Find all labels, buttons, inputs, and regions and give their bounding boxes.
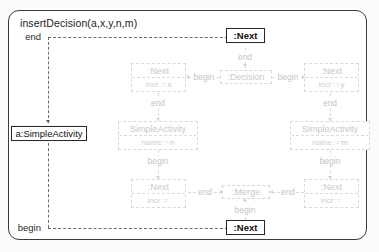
edge-top-end-line <box>48 37 228 38</box>
edge-label-top-end: end <box>24 31 42 42</box>
rule-title: insertDecision(a,x,y,n,m) <box>20 17 137 29</box>
node-next-x-label: :Next <box>132 64 185 78</box>
edge-label-decision-begin-r: begin <box>277 72 300 82</box>
node-next-bottom-left-attr-name: incr <box>148 196 161 205</box>
node-decision[interactable]: :Decision <box>220 70 272 84</box>
edge-label-activity-m-begin: begin <box>319 156 342 166</box>
node-next-y-attribute: incr := y <box>305 78 358 91</box>
edge-label-decision-begin-l: begin <box>193 72 216 82</box>
node-next-bottom-right[interactable]: :Next incr := <box>304 179 359 208</box>
node-next-bottom-left-attr-op: := <box>160 196 169 205</box>
edge-left-spine-upper <box>48 37 49 123</box>
node-activity-n-attribute: name := n <box>119 136 197 149</box>
node-next-bottom-right-label: :Next <box>305 180 358 194</box>
node-decision-label: :Decision <box>221 71 271 83</box>
node-next-x-attr-op: := <box>158 80 167 89</box>
node-next-x-attr-value: x <box>167 80 171 89</box>
node-activity-m-attribute: name := m <box>291 136 369 149</box>
diagram-canvas: insertDecision(a,x,y,n,m) end begin end … <box>0 0 379 252</box>
node-next-x-attribute: incr := x <box>132 78 185 91</box>
node-activity-m-attr-name: name <box>312 138 332 147</box>
edge-merge-end-right-arrow <box>270 190 273 194</box>
node-anchor-activity-label: a:SimpleActivity <box>15 128 82 139</box>
node-bottom-next-label: :Next <box>234 222 258 233</box>
node-next-bottom-left-attribute: incr := <box>132 194 185 207</box>
node-bottom-next[interactable]: :Next <box>226 220 265 235</box>
edge-label-merge-end-l: end <box>197 187 213 197</box>
node-next-y-attr-value: y <box>340 80 344 89</box>
node-next-y[interactable]: :Next incr := y <box>304 63 359 92</box>
node-activity-m[interactable]: SimpleActivity name := m <box>290 121 370 150</box>
node-activity-n-attr-op: := <box>161 138 170 147</box>
node-next-y-attr-op: := <box>331 80 340 89</box>
node-activity-n[interactable]: SimpleActivity name := n <box>118 121 198 150</box>
node-merge-label: :Merge <box>223 186 269 198</box>
node-next-bottom-right-attr-op: := <box>333 196 342 205</box>
node-next-bottom-left-label: :Next <box>132 180 185 194</box>
node-activity-m-attr-op: := <box>332 138 341 147</box>
node-next-bottom-right-attribute: incr := <box>305 194 358 207</box>
edge-label-decision-end: end <box>237 52 253 62</box>
edge-label-next-y-end: end <box>322 98 338 108</box>
edge-decision-begin-left-arrow <box>186 75 189 79</box>
edge-label-merge-begin: begin <box>234 205 257 215</box>
edge-bottom-begin-line <box>48 228 228 229</box>
node-activity-m-attr-value: m <box>341 138 348 147</box>
edge-label-merge-end-r: end <box>280 187 296 197</box>
node-activity-n-attr-name: name <box>141 138 161 147</box>
node-next-y-label: :Next <box>305 64 358 78</box>
node-next-bottom-right-attr-name: incr <box>321 196 334 205</box>
node-activity-n-attr-value: n <box>170 138 174 147</box>
node-top-next[interactable]: :Next <box>226 28 265 43</box>
node-next-y-attr-name: incr <box>319 80 332 89</box>
edge-label-bottom-begin: begin <box>17 222 42 233</box>
edge-label-next-x-end: end <box>150 98 166 108</box>
node-anchor-activity[interactable]: a:SimpleActivity <box>11 126 87 141</box>
node-top-next-label: :Next <box>234 30 258 41</box>
node-next-bottom-left[interactable]: :Next incr := <box>131 179 186 208</box>
edge-label-activity-n-begin: begin <box>147 156 170 166</box>
node-next-x-attr-name: incr <box>146 80 159 89</box>
edge-decision-end-arrow <box>243 64 247 67</box>
node-merge[interactable]: :Merge <box>222 185 270 199</box>
node-activity-n-label: SimpleActivity <box>119 122 197 136</box>
node-next-x[interactable]: :Next incr := x <box>131 63 186 92</box>
node-activity-m-label: SimpleActivity <box>291 122 369 136</box>
edge-left-spine-lower <box>48 143 49 228</box>
edge-left-spine-arrow <box>46 120 50 123</box>
